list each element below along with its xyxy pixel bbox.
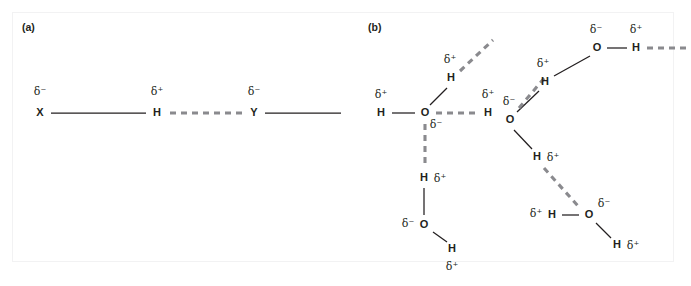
atom-layer: Xδ⁻Hδ⁺Yδ⁻Oδ⁻Hδ⁺Hδ⁺Hδ⁺Hδ⁺Oδ⁻Hδ⁺Oδ⁻Hδ⁺Oδ⁻H… bbox=[34, 23, 643, 273]
covalent-bond bbox=[596, 223, 611, 238]
partial-charge-label: δ⁺ bbox=[151, 85, 164, 98]
partial-charge-label: δ⁺ bbox=[375, 88, 388, 101]
panel-label-layer: (a) (b) bbox=[22, 21, 381, 33]
atom-label-x: X bbox=[36, 106, 44, 118]
hydrogen-bond bbox=[544, 168, 578, 206]
partial-charge-label: δ⁻ bbox=[598, 197, 611, 210]
atom-label-h: H bbox=[548, 208, 556, 220]
partial-charge-label: δ⁺ bbox=[537, 57, 550, 70]
atom-label-h: H bbox=[448, 242, 456, 254]
partial-charge-label: δ⁺ bbox=[434, 172, 447, 185]
partial-charge-label: δ⁺ bbox=[547, 151, 560, 164]
hydrogen-bond bbox=[460, 40, 493, 71]
panel-b-label: (b) bbox=[368, 21, 381, 33]
partial-charge-label: δ⁻ bbox=[402, 217, 415, 230]
atom-label-o: O bbox=[420, 218, 429, 230]
partial-charge-label: δ⁺ bbox=[630, 23, 643, 36]
atom-label-o: O bbox=[506, 113, 515, 125]
atom-label-h: H bbox=[533, 150, 541, 162]
atom-label-h: H bbox=[377, 106, 385, 118]
atom-label-h: H bbox=[420, 171, 428, 183]
atom-label-h: H bbox=[632, 41, 640, 53]
partial-charge-label: δ⁺ bbox=[444, 53, 457, 66]
partial-charge-label: δ⁺ bbox=[482, 88, 495, 101]
atom-label-h: H bbox=[484, 106, 492, 118]
covalent-bond bbox=[514, 130, 532, 149]
covalent-bond bbox=[554, 56, 590, 76]
atom-label-h: H bbox=[541, 75, 549, 87]
partial-charge-label: δ⁻ bbox=[503, 95, 516, 108]
atom-label-h: H bbox=[153, 106, 161, 118]
atom-label-o: O bbox=[593, 41, 602, 53]
covalent-bond bbox=[430, 88, 447, 105]
partial-charge-label: δ⁻ bbox=[34, 85, 47, 98]
hydrogen-bonding-diagram: Xδ⁻Hδ⁺Yδ⁻Oδ⁻Hδ⁺Hδ⁺Hδ⁺Hδ⁺Oδ⁻Hδ⁺Oδ⁻Hδ⁺Oδ⁻H… bbox=[0, 0, 691, 286]
partial-charge-label: δ⁻ bbox=[248, 85, 261, 98]
partial-charge-label: δ⁺ bbox=[530, 207, 543, 220]
panel-a-label: (a) bbox=[22, 21, 35, 33]
atom-label-y: Y bbox=[250, 106, 258, 118]
covalent-bond bbox=[433, 232, 447, 242]
atom-label-o: O bbox=[421, 106, 430, 118]
partial-charge-label: δ⁺ bbox=[627, 239, 640, 252]
partial-charge-label: δ⁺ bbox=[446, 260, 459, 273]
partial-charge-label: δ⁻ bbox=[590, 23, 603, 36]
atom-label-h: H bbox=[613, 238, 621, 250]
partial-charge-label: δ⁻ bbox=[430, 118, 443, 131]
atom-label-h: H bbox=[447, 71, 455, 83]
hydrogen-bonding-figure: Xδ⁻Hδ⁺Yδ⁻Oδ⁻Hδ⁺Hδ⁺Hδ⁺Hδ⁺Oδ⁻Hδ⁺Oδ⁻Hδ⁺Oδ⁻H… bbox=[0, 0, 691, 286]
atom-label-o: O bbox=[585, 208, 594, 220]
